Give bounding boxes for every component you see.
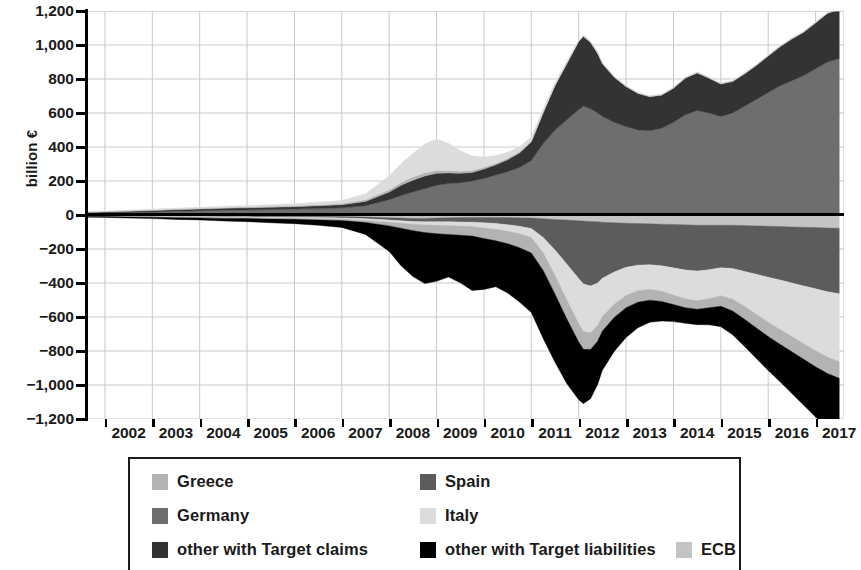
legend-label: ECB [701,540,736,559]
x-tick-mark [816,419,819,427]
y-tick-label: 1,000 [4,37,74,53]
x-tick-mark [768,419,771,427]
y-tick-mark [76,78,86,81]
y-tick-mark [76,44,86,47]
y-tick-label: 400 [4,139,74,155]
legend-item-greece[interactable]: Greece [152,472,234,491]
y-tick-label: −800 [4,343,74,359]
y-tick-mark [76,282,86,285]
legend-item-spain[interactable]: Spain [420,472,490,491]
legend-swatch-icon [420,542,436,558]
legend-swatch-icon [420,474,436,490]
x-tick-mark [626,419,629,427]
chart-legend: GreeceSpainGermanyItalyother with Target… [128,457,741,570]
x-tick-mark [152,419,155,427]
x-tick-mark [579,419,582,427]
legend-swatch-icon [152,508,168,524]
x-tick-mark [437,419,440,427]
x-tick-mark [389,419,392,427]
legend-row: GermanyItaly [130,502,739,534]
y-tick-mark [76,180,86,183]
zero-baseline [85,213,844,216]
x-tick-mark [200,419,203,427]
x-tick-mark [342,419,345,427]
legend-item-germany[interactable]: Germany [152,506,249,525]
x-tick-mark [531,419,534,427]
legend-row: GreeceSpain [130,468,739,500]
y-axis-tick-labels: 1,2001,0008006004002000−200−400−600−800−… [12,0,74,430]
legend-swatch-icon [676,542,692,558]
y-tick-label: −600 [4,309,74,325]
y-tick-label: 600 [4,105,74,121]
y-tick-mark [76,248,86,251]
y-tick-label: −200 [4,241,74,257]
legend-swatch-icon [152,542,168,558]
legend-item-ecb[interactable]: ECB [676,540,736,559]
y-tick-label: 1,200 [4,3,74,19]
y-tick-label: −400 [4,275,74,291]
y-tick-mark [76,112,86,115]
legend-item-other-claims[interactable]: other with Target claims [152,540,368,559]
y-tick-mark [76,146,86,149]
legend-swatch-icon [152,474,168,490]
y-tick-label: 800 [4,71,74,87]
y-tick-mark [76,384,86,387]
legend-item-italy[interactable]: Italy [420,506,479,525]
legend-label: Spain [445,472,490,491]
legend-row: other with Target claimsother with Targe… [130,536,739,568]
x-tick-mark [721,419,724,427]
x-axis-tick-labels: 2002200320042005200620072008200920102011… [0,424,851,450]
y-tick-mark [76,10,86,13]
y-tick-label: −1,000 [4,377,74,393]
legend-label: Italy [445,506,479,525]
legend-item-other-liabilities[interactable]: other with Target liabilities [420,540,656,559]
legend-swatch-icon [420,508,436,524]
legend-label: Germany [177,506,249,525]
y-tick-label: 0 [4,207,74,223]
x-tick-mark [673,419,676,427]
y-tick-label: 200 [4,173,74,189]
legend-label: other with Target liabilities [445,540,656,559]
y-tick-mark [76,316,86,319]
y-tick-mark [76,418,86,421]
legend-label: other with Target claims [177,540,368,559]
y-tick-mark [76,214,86,217]
x-tick-mark [105,419,108,427]
x-tick-mark [247,419,250,427]
y-tick-mark [76,350,86,353]
x-tick-mark [294,419,297,427]
legend-label: Greece [177,472,234,491]
x-tick-mark [484,419,487,427]
